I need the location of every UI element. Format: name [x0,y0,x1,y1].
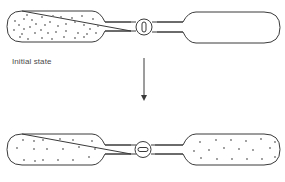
gas-particles-final-left [16,138,96,162]
initial-state-apparatus [7,11,280,43]
gas-particles-initial-left [13,14,99,40]
gas-particles-final-right [193,138,276,160]
down-arrow-icon [141,58,147,101]
left-vessel-initial [7,11,131,42]
right-vessel-initial [157,12,280,43]
left-vessel-final [7,134,131,165]
gas-expansion-diagram [0,0,285,182]
initial-state-label: Initial state [12,57,52,66]
